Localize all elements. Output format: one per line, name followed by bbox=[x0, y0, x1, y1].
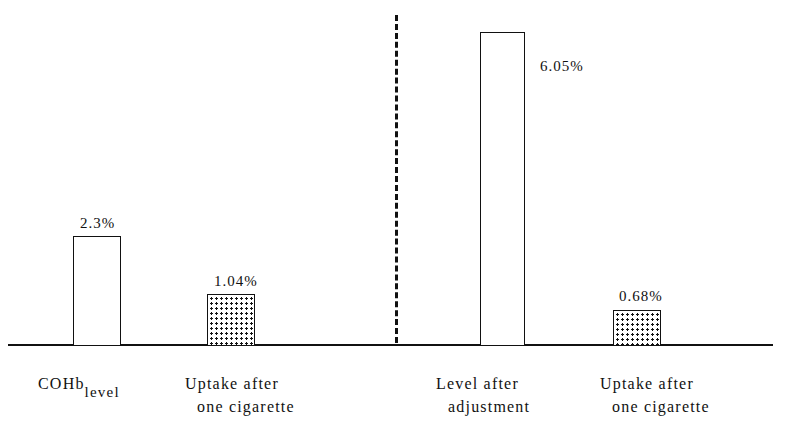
label-line: one cigarette bbox=[600, 395, 710, 418]
bar-value-label: 1.04% bbox=[214, 273, 258, 290]
bar-uptake-2 bbox=[613, 310, 661, 346]
bar-uptake-1 bbox=[207, 294, 255, 346]
label-line: Uptake after bbox=[185, 372, 295, 395]
bar-value-label: 0.68% bbox=[619, 288, 663, 305]
bar-value-label: 2.3% bbox=[80, 215, 115, 232]
category-label: Uptake after one cigarette bbox=[600, 372, 710, 418]
label-line: adjustment bbox=[436, 395, 530, 418]
label-line: one cigarette bbox=[185, 395, 295, 418]
bar-cohb-level bbox=[73, 236, 121, 346]
bar-value-label: 6.05% bbox=[540, 58, 584, 75]
label-line: Level after bbox=[436, 372, 530, 395]
category-label-main: COHb bbox=[38, 375, 85, 392]
label-line: Uptake after bbox=[600, 372, 710, 395]
category-label: COHblevel bbox=[38, 372, 120, 404]
category-label: Uptake after one cigarette bbox=[185, 372, 295, 418]
category-label-sub: level bbox=[85, 384, 120, 400]
category-label: Level after adjustment bbox=[436, 372, 530, 418]
group-divider bbox=[395, 15, 398, 343]
bar-level-after-adjustment bbox=[480, 32, 525, 346]
